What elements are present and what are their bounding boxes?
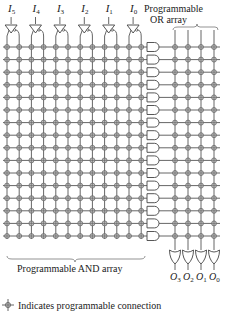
programmable-connection [114,57,119,62]
programmable-connection [29,120,34,125]
programmable-connection [199,133,204,138]
programmable-connection [127,108,132,113]
and-gate [147,194,159,203]
input-buffer: I3 [54,2,68,38]
programmable-connection [78,221,83,226]
programmable-connection [78,120,83,125]
programmable-connection [139,70,144,75]
programmable-connection [102,70,107,75]
programmable-connection [199,171,204,176]
programmable-connection [17,234,22,239]
programmable-connection [90,82,95,87]
programmable-connection [139,221,144,226]
programmable-connection [212,82,217,87]
programmable-connection [212,171,217,176]
programmable-connection [90,183,95,188]
input-label: I4 [32,2,41,16]
and-gate [147,156,159,165]
programmable-connection [199,82,204,87]
programmable-connection [199,108,204,113]
programmable-connection [139,183,144,188]
programmable-connection [186,45,191,50]
programmable-connection [29,82,34,87]
and-array-grid [3,38,147,239]
programmable-connection [102,234,107,239]
programmable-connection [114,95,119,100]
programmable-connection [17,82,22,87]
legend-text: Indicates programmable connection [18,300,161,311]
programmable-connection [114,45,119,50]
programmable-connection [127,45,132,50]
programmable-connection [53,158,58,163]
programmable-connection [5,95,10,100]
programmable-connection [78,234,83,239]
output-label: O1 [196,271,207,284]
programmable-connection [5,158,10,163]
programmable-connection [114,158,119,163]
programmable-connection [114,120,119,125]
programmable-connection [17,183,22,188]
programmable-connection [212,183,217,188]
programmable-connection [139,57,144,62]
pla-diagram: I5I4I3I2I1I0 Programmable OR array Progr… [0,0,236,312]
programmable-connection [102,158,107,163]
output-label: O2 [183,271,194,284]
programmable-connection [102,183,107,188]
programmable-connection [102,221,107,226]
programmable-connection [186,158,191,163]
programmable-connection [139,133,144,138]
programmable-connection [186,108,191,113]
programmable-connection [173,196,178,201]
programmable-connection [41,221,46,226]
programmable-connection [173,158,178,163]
programmable-connection [102,208,107,213]
programmable-connection [66,171,71,176]
programmable-connection [78,133,83,138]
programmable-connection [53,120,58,125]
programmable-connection [5,133,10,138]
programmable-connection [78,196,83,201]
or-array-label-line2: OR array [150,14,187,25]
programmable-connection [114,221,119,226]
programmable-connection [5,145,10,150]
and-gate [147,181,159,190]
programmable-connection [199,234,204,239]
input-label: I1 [105,2,114,16]
programmable-connection [186,57,191,62]
programmable-connection [53,171,58,176]
programmable-connection [173,45,178,50]
and-gate [147,93,159,102]
programmable-connection [17,108,22,113]
programmable-connection [78,45,83,50]
programmable-connection [173,120,178,125]
programmable-connection [199,196,204,201]
or-gates [170,250,220,270]
programmable-connection [29,234,34,239]
programmable-connection [114,183,119,188]
programmable-connection [66,120,71,125]
programmable-connection [66,196,71,201]
programmable-connection [173,183,178,188]
programmable-connection [186,82,191,87]
programmable-connection [186,95,191,100]
programmable-connection [127,171,132,176]
input-buffers: I5I4I3I2I1I0 [5,2,141,38]
input-buffer: I1 [103,2,117,38]
programmable-connection [114,171,119,176]
programmable-connection [114,82,119,87]
programmable-connection [41,234,46,239]
programmable-connection [199,158,204,163]
and-gate [147,169,159,178]
programmable-connection [66,208,71,213]
input-label: I3 [56,2,65,16]
programmable-connection [186,221,191,226]
programmable-connection [29,70,34,75]
programmable-connection [90,171,95,176]
and-gate [147,131,159,140]
programmable-connection [53,70,58,75]
programmable-connection [173,145,178,150]
programmable-connection [29,171,34,176]
or-array-label-line1: Programmable [144,3,203,14]
programmable-connection [139,171,144,176]
programmable-connection [173,171,178,176]
